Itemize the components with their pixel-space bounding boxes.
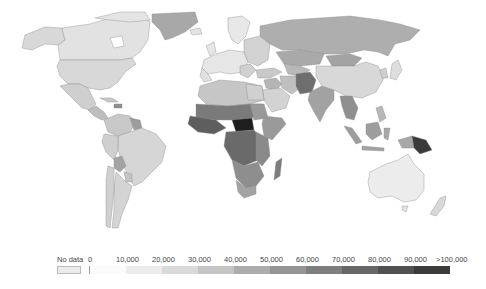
region-sulawesi [384, 128, 390, 140]
region-philippines [376, 106, 386, 122]
ramp-step-2 [162, 266, 198, 274]
region-horn-of-africa [262, 116, 286, 140]
region-caribbean [114, 104, 122, 108]
region-australia [368, 154, 424, 202]
ramp-step-8 [378, 266, 414, 274]
legend-tick-6: 60,000 [296, 255, 319, 264]
legend-no-data-label: No data [57, 255, 83, 264]
legend-tick-1: 10,000 [116, 255, 139, 264]
region-java [362, 146, 384, 151]
legend-tick-7: 70,000 [332, 255, 355, 264]
legend-tick-10: >100,000 [436, 255, 468, 264]
ramp-step-7 [342, 266, 378, 274]
region-paraguay [124, 172, 132, 182]
region-sumatra [344, 126, 362, 144]
region-saudi-arabia [262, 88, 290, 112]
legend-color-ramp [89, 266, 450, 274]
region-balkans [240, 64, 256, 78]
legend-no-data-swatch [57, 266, 81, 274]
region-cuba [100, 98, 118, 102]
region-papua-new-guinea [412, 136, 432, 154]
region-mongolia [326, 54, 362, 66]
region-greenland [152, 12, 198, 40]
region-madagascar [274, 158, 282, 180]
ramp-step-3 [198, 266, 234, 274]
region-turkey [256, 68, 282, 78]
region-tasmania [402, 206, 408, 212]
region-japan [390, 60, 402, 80]
legend-tick-9: 90,000 [404, 255, 427, 264]
region-iceland [190, 28, 202, 35]
region-peru [102, 134, 118, 160]
region-russia [260, 16, 420, 56]
legend-tick-3: 30,000 [188, 255, 211, 264]
region-indochina [340, 96, 358, 120]
region-uk-ireland [206, 42, 216, 56]
region-papua-west [398, 136, 414, 148]
region-borneo [366, 122, 382, 140]
region-egypt [246, 84, 264, 100]
legend-tick-0: 0 [88, 255, 92, 264]
legend-tick-8: 80,000 [368, 255, 391, 264]
legend-tick-5: 50,000 [260, 255, 283, 264]
ramp-step-0 [90, 266, 126, 274]
ramp-step-5 [270, 266, 306, 274]
ramp-step-4 [234, 266, 270, 274]
region-central-african-republic [232, 118, 254, 132]
region-india [308, 86, 334, 122]
legend-tick-4: 40,000 [224, 255, 247, 264]
region-new-zealand [430, 196, 446, 216]
ramp-step-1 [126, 266, 162, 274]
legend-tick-2: 20,000 [152, 255, 175, 264]
ramp-step-9 [414, 266, 450, 274]
ramp-step-6 [306, 266, 342, 274]
region-canada [58, 15, 150, 60]
region-chile [106, 166, 114, 228]
world-choropleth-map [0, 0, 486, 240]
